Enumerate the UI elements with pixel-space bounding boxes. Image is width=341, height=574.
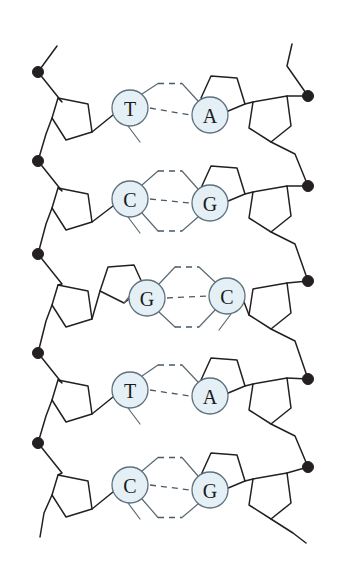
- hydrogen-bond-4-2: [150, 390, 190, 396]
- base-letter-right-5: G: [203, 480, 217, 502]
- left-glycosidic-bond-5: [92, 492, 113, 509]
- left-glycosidic-bond-1: [92, 115, 113, 132]
- hydrogen-bond-2-2: [150, 199, 190, 203]
- hbond-stub-right-4-1: [182, 365, 198, 382]
- left-glycosidic-bond-2: [92, 206, 113, 222]
- right-glycosidic-bond-5: [245, 479, 253, 481]
- right-glycosidic-bond-1: [245, 102, 253, 104]
- right-sugar-to-phosphate-3: [271, 329, 308, 379]
- left-deoxyribose-sugar-1: [52, 98, 92, 140]
- base-pair-group: TACGGCTACG: [112, 84, 245, 518]
- left-deoxyribose-sugar-2: [52, 188, 92, 230]
- left-phosphate-group-2: [33, 156, 44, 167]
- right-phosphate-group-2: [303, 181, 314, 192]
- left-glycosidic-bond-3: [92, 291, 100, 319]
- left-deoxyribose-sugar-4: [52, 380, 92, 422]
- left-sugar-to-phosphate-1: [38, 118, 52, 161]
- left-phosphate-group-1: [33, 67, 44, 78]
- base-pair-row-5: CG: [112, 458, 228, 518]
- base-letter-left-4: T: [124, 380, 136, 402]
- left-glycosidic-bond-4: [92, 397, 113, 414]
- left-sugar-to-phosphate-4: [38, 400, 52, 443]
- left-base-substituent-4: [128, 408, 140, 424]
- base-letter-right-4: A: [203, 386, 218, 408]
- hbond-stub-left-3-3: [159, 312, 175, 327]
- hydrogen-bond-3-2: [167, 296, 207, 298]
- base-letter-right-1: A: [203, 105, 218, 127]
- left-base-substituent-2: [128, 217, 140, 233]
- hydrogen-bond-5-2: [150, 485, 190, 490]
- right-phosphate-group-3: [303, 276, 314, 287]
- hbond-stub-left-4-1: [142, 365, 158, 376]
- right-glycosidic-bond-3: [244, 302, 249, 315]
- hbond-stub-right-2-1: [182, 171, 198, 189]
- base-letter-left-1: T: [124, 98, 136, 120]
- right-phosphate-group-4: [303, 374, 314, 385]
- right-sugar-to-phosphate-2: [271, 232, 308, 281]
- hbond-stub-right-5-1: [182, 458, 198, 477]
- left-base-substituent-1: [128, 126, 140, 142]
- left-phosphate-group-5: [33, 438, 44, 449]
- base-letter-left-3: G: [140, 288, 154, 310]
- base-letter-right-3: C: [220, 286, 233, 308]
- base-letter-right-2: G: [203, 193, 217, 215]
- hbond-stub-right-3-1: [199, 267, 215, 282]
- base-pair-row-4: TA: [112, 365, 228, 414]
- right-phosphate-group-1: [303, 91, 314, 102]
- right-base-substituent-3: [219, 314, 231, 330]
- hydrogen-bond-1-2: [150, 108, 190, 115]
- dna-diagram-root: DNA Double Helix Base Pairing TACGGCTACG: [0, 0, 341, 574]
- base-letter-left-5: C: [123, 475, 136, 497]
- left-sugar-to-phosphate-2: [38, 208, 52, 254]
- hbond-stub-right-5-3: [182, 504, 198, 518]
- left-deoxyribose-sugar-3: [52, 285, 92, 327]
- right-strand-trailing-stub: [271, 519, 306, 543]
- right-deoxyribose-sugar-1: [249, 96, 291, 142]
- hbond-stub-left-2-1: [142, 171, 158, 185]
- hbond-stub-left-2-3: [142, 213, 158, 231]
- left-strand-trailing-stub: [40, 495, 52, 537]
- hbond-stub-left-1-1: [142, 84, 158, 95]
- hbond-stub-left-5-3: [142, 499, 158, 518]
- right-deoxyribose-sugar-2: [249, 186, 291, 232]
- left-phosphate-group-3: [33, 249, 44, 260]
- base-pair-row-2: CG: [112, 171, 228, 231]
- hbond-stub-left-3-1: [159, 267, 175, 284]
- right-deoxyribose-sugar-5: [249, 473, 291, 519]
- hbond-stub-right-1-1: [182, 84, 198, 102]
- right-phosphate-group-5: [303, 462, 314, 473]
- right-glycosidic-bond-4: [245, 384, 253, 386]
- dna-double-helix-figure: DNA Double Helix Base Pairing TACGGCTACG: [0, 0, 341, 574]
- base-letter-left-2: C: [123, 189, 136, 211]
- left-deoxyribose-sugar-5: [52, 475, 92, 517]
- hbond-stub-right-2-3: [182, 217, 198, 231]
- right-strand-terminal-stub: [287, 44, 308, 96]
- right-deoxyribose-sugar-3: [249, 283, 291, 329]
- right-glycosidic-bond-2: [245, 192, 253, 194]
- right-sugar-to-phosphate-4: [271, 424, 308, 467]
- right-sugar-to-phosphate-1: [271, 142, 308, 186]
- left-sugar-to-phosphate-3: [38, 305, 52, 353]
- hbond-stub-right-3-3: [199, 310, 215, 327]
- left-base-substituent-5: [128, 503, 140, 519]
- right-deoxyribose-sugar-4: [249, 378, 291, 424]
- left-phosphate-group-4: [33, 348, 44, 359]
- hbond-stub-left-5-1: [142, 458, 158, 472]
- base-pair-row-1: TA: [112, 84, 228, 134]
